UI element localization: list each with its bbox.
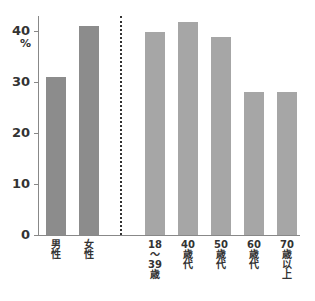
bar-age-50s — [211, 37, 231, 235]
bar-male — [46, 77, 66, 235]
y-tick-label-30: 30 — [0, 74, 30, 89]
y-tick-20 — [34, 133, 39, 134]
x-label-female: 女 性 — [77, 240, 101, 260]
x-label-age-60s: 60 歳 代 — [242, 240, 266, 270]
x-axis — [38, 235, 300, 236]
bar-age-60s — [244, 92, 264, 235]
bar-age-40s — [178, 22, 198, 235]
x-label-age-40s: 40 歳 代 — [176, 240, 200, 270]
y-axis — [38, 16, 39, 236]
y-tick-label-0: 0 — [0, 227, 30, 242]
y-tick-label-10: 10 — [0, 176, 30, 191]
bar-age-18-39 — [145, 32, 165, 235]
y-tick-label-20: 20 — [0, 125, 30, 140]
x-label-male: 男 性 — [44, 240, 68, 260]
bar-age-70plus — [277, 92, 297, 235]
y-tick-0 — [34, 235, 39, 236]
x-label-age-18-39: 18 ～ 39 歳 — [143, 240, 167, 280]
x-label-age-70plus: 70 歳 以 上 — [275, 240, 299, 280]
y-tick-30 — [34, 82, 39, 83]
y-tick-10 — [34, 184, 39, 185]
x-label-age-50s: 50 歳 代 — [209, 240, 233, 270]
bar-female — [79, 26, 99, 235]
y-tick-40 — [34, 31, 39, 32]
group-separator — [120, 16, 122, 235]
bar-chart: 0 10 20 30 40 % 男 性 女 性 18 ～ 39 歳 40 歳 代… — [0, 0, 315, 301]
y-tick-label-40: 40 — [0, 23, 30, 38]
y-unit-label: % — [20, 37, 31, 50]
